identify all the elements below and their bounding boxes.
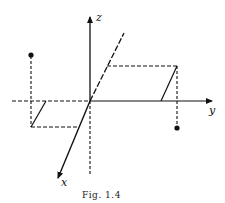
point-left-dot [28, 52, 33, 57]
point-left-construction [28, 52, 77, 127]
point-right-dot [174, 125, 179, 130]
coordinate-diagram: z y x Fig. 1.4 [0, 0, 225, 203]
point-right-construction [107, 66, 180, 131]
figure-caption: Fig. 1.4 [82, 190, 121, 200]
z-axis-label: z [95, 11, 102, 24]
y-axis-label: y [208, 104, 216, 117]
x-axis-label: x [61, 176, 68, 189]
x-axis [58, 33, 124, 178]
